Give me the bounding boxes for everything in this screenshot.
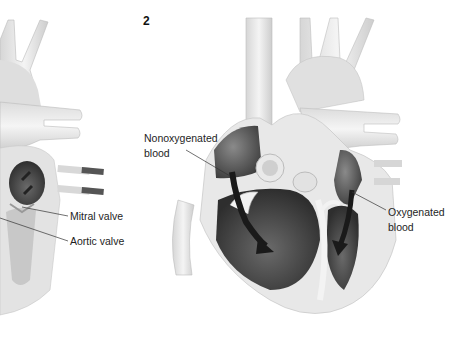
panel-number: 2 (143, 14, 150, 28)
nonoxygenated-label-line1: Nonoxygenated (144, 131, 218, 146)
oxygenated-label-line2: blood (388, 220, 414, 235)
aortic-valve-label: Aortic valve (70, 234, 124, 249)
panel-2-heart (172, 18, 402, 314)
heart-illustration (0, 0, 470, 337)
oxygenated-label-line1: Oxygenated (388, 205, 445, 220)
panel-1-heart (0, 20, 104, 315)
heart-diagram-figure: 2 Mitral valve Aortic valve Nonoxygenate… (0, 0, 470, 337)
mitral-valve-label: Mitral valve (70, 209, 123, 224)
nonoxygenated-label-line2: blood (144, 146, 170, 161)
